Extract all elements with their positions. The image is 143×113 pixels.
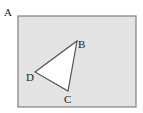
label-c: C — [64, 93, 71, 105]
label-b: B — [78, 38, 85, 50]
label-a: A — [4, 6, 12, 18]
rectangle-a — [18, 16, 136, 107]
diagram-canvas: A B C D — [0, 0, 143, 113]
label-d: D — [26, 71, 34, 83]
